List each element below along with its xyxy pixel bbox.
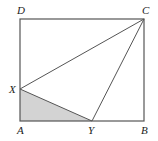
label-d: D bbox=[16, 4, 25, 16]
segment-yc bbox=[92, 19, 144, 121]
label-y: Y bbox=[88, 124, 96, 136]
label-b: B bbox=[141, 124, 148, 136]
label-a: A bbox=[16, 124, 24, 136]
diagram-svg: D C X A Y B bbox=[0, 0, 158, 141]
segment-xc bbox=[20, 19, 144, 89]
label-c: C bbox=[142, 4, 150, 16]
label-x: X bbox=[8, 83, 17, 95]
geometry-diagram: D C X A Y B bbox=[0, 0, 158, 141]
